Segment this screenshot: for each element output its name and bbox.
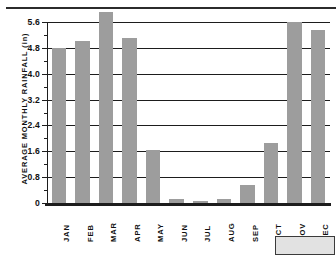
y-axis-tick-label: 1.6 (27, 146, 40, 156)
x-axis-tick-label-apr: APR (133, 208, 142, 242)
bar-may (146, 150, 161, 203)
x-axis-tick-label-feb: FEB (86, 208, 95, 242)
x-axis-tick-label-jun: JUN (180, 208, 189, 242)
y-axis-tick-label: 5.6 (27, 17, 40, 27)
bar-apr (122, 38, 137, 203)
y-axis-tick-label: 4.0 (27, 69, 40, 79)
y-axis-tick-label: 0.8 (27, 172, 40, 182)
bar-dec (311, 30, 326, 203)
bar-mar (99, 12, 114, 203)
bar-jul (193, 201, 208, 203)
bar-jan (52, 48, 67, 203)
y-axis-major-tick (42, 203, 47, 204)
x-axis-tick-label-jul: JUL (203, 208, 212, 242)
bar-nov (287, 22, 302, 203)
y-axis-tick-label: 3.2 (27, 95, 40, 105)
bar-oct (264, 143, 279, 203)
corner-placeholder-box (275, 236, 335, 255)
x-axis-spine (45, 203, 331, 206)
bar-aug (217, 199, 232, 203)
x-axis-tick-label-aug: AUG (227, 208, 236, 242)
y-axis-tick-label: 0 (35, 198, 40, 208)
bar-jun (169, 199, 184, 203)
bar-feb (75, 41, 90, 203)
bar-sep (240, 185, 255, 203)
y-axis-tick-label: 4.8 (27, 43, 40, 53)
x-axis-tick-label-may: MAY (156, 208, 165, 242)
top-rule-divider (6, 7, 336, 9)
y-axis-tick-label: 2.4 (27, 120, 40, 130)
rainfall-bar-chart-figure: AVERAGE MONTHLY RAINFALL (in) 00.81.62.4… (0, 0, 336, 256)
x-axis-tick-label-sep: SEP (251, 208, 260, 242)
plot-area: 00.81.62.43.24.04.85.6 (47, 22, 330, 203)
x-axis-tick-label-jan: JAN (62, 208, 71, 242)
bars-group (47, 22, 330, 203)
x-axis-tick-label-mar: MAR (109, 208, 118, 242)
